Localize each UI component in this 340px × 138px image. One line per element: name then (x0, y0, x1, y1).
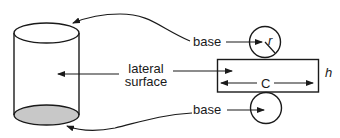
top-base-label: base (193, 35, 221, 48)
diagram-canvas (0, 0, 340, 138)
circumference-label: C (261, 77, 270, 90)
cylinder-bottom-base (14, 105, 79, 125)
lateral-surface-label-line2: surface (122, 75, 170, 88)
top-base-curved-arrow (73, 14, 190, 41)
cylinder-top-base (14, 23, 79, 43)
height-label: h (325, 66, 332, 79)
bottom-base-circle (251, 93, 282, 124)
bottom-base-label: base (193, 103, 221, 116)
radius-label: r (268, 34, 272, 47)
bottom-base-curved-arrow (67, 113, 192, 130)
